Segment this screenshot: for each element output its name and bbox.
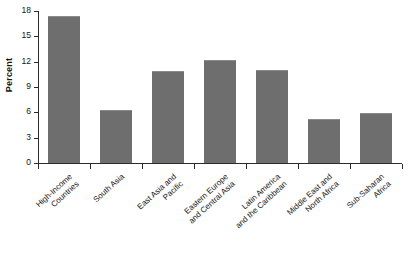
bar: [360, 113, 392, 163]
bar: [48, 16, 80, 163]
plot-area: 0369121518: [38, 8, 402, 166]
y-tick-label: 9: [26, 81, 31, 91]
x-axis-category-labels: High-IncomeCountriesSouth AsiaEast Asia …: [38, 168, 414, 262]
bar: [256, 70, 288, 163]
bar: [100, 110, 132, 163]
y-tick-label: 18: [22, 5, 31, 15]
x-axis-label: East Asia andPacific: [75, 172, 184, 262]
y-tick-label: 6: [26, 106, 31, 116]
bar-chart: Percent 0369121518 High-IncomeCountriesS…: [0, 0, 414, 262]
x-axis-line: [38, 163, 402, 164]
y-axis-title: Percent: [4, 47, 14, 103]
y-tick-label: 3: [26, 132, 31, 142]
y-tick-label: 0: [26, 157, 31, 167]
bar: [204, 60, 236, 163]
bars-layer: [38, 11, 402, 163]
y-tick-label: 15: [22, 30, 31, 40]
chart-title: [110, 0, 390, 2]
y-tick-label: 12: [22, 56, 31, 66]
bar: [308, 119, 340, 163]
bar: [152, 71, 184, 163]
